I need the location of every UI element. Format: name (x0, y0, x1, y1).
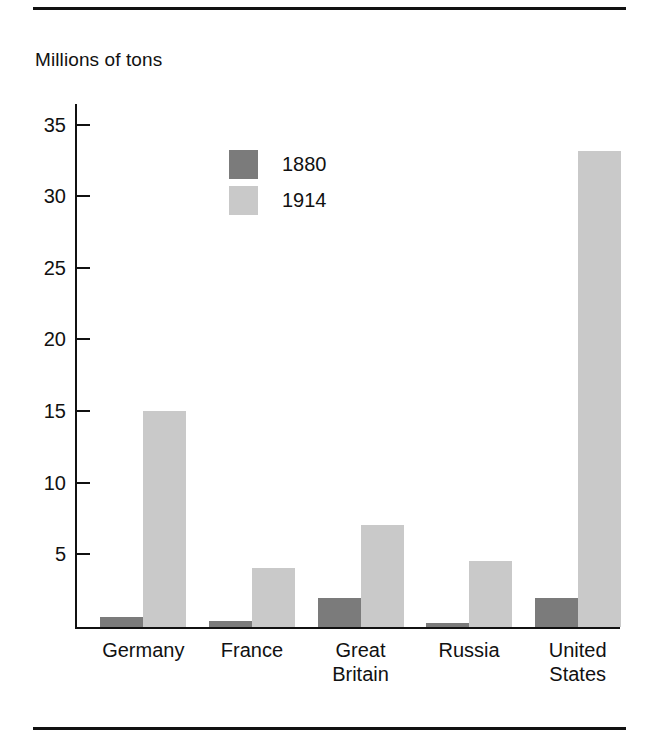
chart-plot-area: 5101520253035 (75, 104, 620, 629)
legend-label-1880: 1880 (282, 154, 327, 174)
bar-1914-france (252, 568, 295, 627)
bars-layer (77, 104, 620, 627)
top-divider-rule (33, 7, 626, 10)
legend-label-1914: 1914 (282, 190, 327, 210)
y-tick-label-35: 35 (44, 115, 66, 135)
bar-1880-germany (100, 617, 143, 627)
x-category-label-united-states: United States (513, 638, 643, 686)
bar-1914-great-britain (361, 525, 404, 627)
legend-item-1914: 1914 (229, 182, 327, 218)
y-tick-label-20: 20 (44, 329, 66, 349)
bar-1914-united-states (578, 151, 621, 627)
bar-1880-russia (426, 623, 469, 627)
bar-1880-great-britain (318, 598, 361, 627)
x-axis-line (75, 627, 620, 629)
legend-swatch-icon-1880 (229, 150, 258, 179)
y-axis-title: Millions of tons (35, 49, 162, 71)
y-tick-label-25: 25 (44, 258, 66, 278)
bottom-divider-rule (33, 727, 626, 730)
bar-1880-france (209, 621, 252, 627)
bar-1914-germany (143, 411, 186, 627)
y-tick-label-30: 30 (44, 186, 66, 206)
bar-1880-united-states (535, 598, 578, 627)
bar-1914-russia (469, 561, 512, 627)
y-tick-label-15: 15 (44, 401, 66, 421)
y-tick-label-5: 5 (55, 544, 66, 564)
legend-swatch-icon-1914 (229, 186, 258, 215)
y-tick-label-10: 10 (44, 473, 66, 493)
legend-item-1880: 1880 (229, 146, 327, 182)
chart-legend: 1880 1914 (229, 146, 327, 218)
